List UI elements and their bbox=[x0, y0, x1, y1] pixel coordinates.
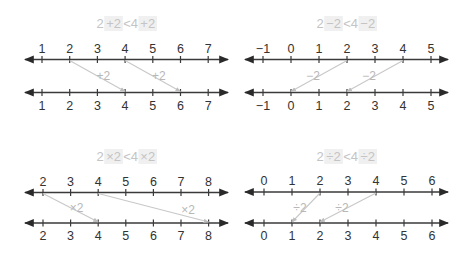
tick-label: 2 bbox=[66, 99, 73, 113]
tick-label: 4 bbox=[373, 229, 380, 243]
tick-label: 3 bbox=[372, 99, 379, 113]
tick-label: 3 bbox=[67, 229, 74, 243]
tick-label: 3 bbox=[94, 42, 101, 56]
operation-label: ÷2 bbox=[335, 201, 349, 215]
tick-label: 4 bbox=[95, 229, 102, 243]
operation-label: ×2 bbox=[181, 203, 195, 217]
tick-label: 5 bbox=[428, 99, 435, 113]
tick-label: 6 bbox=[177, 42, 184, 56]
operation-arrow: ×2 bbox=[98, 194, 208, 223]
tick-label: 2 bbox=[317, 174, 324, 188]
panel-title: 2+2<4+2 bbox=[96, 16, 157, 31]
tick-label: −1 bbox=[256, 99, 270, 113]
title-text: <4 bbox=[343, 16, 358, 31]
tick-label: 4 bbox=[95, 175, 102, 189]
tick-label: 1 bbox=[289, 174, 296, 188]
number-line-diagram: 2+2<4+212345671234567+2+2 2−2<4−2−101234… bbox=[0, 0, 471, 263]
tick-label: 4 bbox=[373, 174, 380, 188]
title-operator: ×2 bbox=[140, 149, 155, 164]
title-operator: ×2 bbox=[106, 149, 121, 164]
tick-label: 1 bbox=[289, 229, 296, 243]
title-operator: +2 bbox=[140, 16, 155, 31]
bottom-number-line: 1234567 bbox=[25, 89, 228, 113]
title-operator: ÷2 bbox=[361, 149, 375, 164]
tick-label: 4 bbox=[400, 42, 407, 56]
tick-label: 4 bbox=[400, 99, 407, 113]
title-operator: −2 bbox=[326, 16, 341, 31]
title-text: 2 bbox=[96, 16, 103, 31]
tick-label: 6 bbox=[150, 175, 157, 189]
operation-arrow: −2 bbox=[347, 61, 403, 92]
tick-label: 0 bbox=[261, 174, 268, 188]
operation-label: +2 bbox=[152, 69, 166, 83]
tick-label: 5 bbox=[401, 174, 408, 188]
tick-label: 2 bbox=[40, 229, 47, 243]
tick-label: 4 bbox=[122, 99, 129, 113]
top-number-line: −1012345 bbox=[245, 42, 448, 64]
tick-label: 2 bbox=[66, 42, 73, 56]
bottom-number-line: 0123456 bbox=[245, 220, 448, 244]
tick-label: 5 bbox=[149, 42, 156, 56]
operation-arrow: −2 bbox=[291, 61, 347, 92]
title-text: <4 bbox=[343, 149, 358, 164]
operation-arrow: ÷2 bbox=[320, 193, 376, 222]
tick-label: 3 bbox=[94, 99, 101, 113]
operation-label: +2 bbox=[97, 69, 111, 83]
tick-label: 4 bbox=[122, 42, 129, 56]
tick-label: 5 bbox=[428, 42, 435, 56]
operation-label: −2 bbox=[306, 69, 320, 83]
title-text: 2 bbox=[96, 149, 103, 164]
tick-label: 1 bbox=[39, 42, 46, 56]
tick-label: 5 bbox=[122, 175, 129, 189]
tick-label: 3 bbox=[345, 174, 352, 188]
tick-label: 7 bbox=[178, 175, 185, 189]
bottom-number-line: 2345678 bbox=[25, 220, 228, 244]
operation-arrow: ÷2 bbox=[292, 193, 320, 222]
tick-label: 6 bbox=[150, 229, 157, 243]
tick-label: 7 bbox=[205, 99, 212, 113]
tick-label: 2 bbox=[344, 42, 351, 56]
tick-label: 3 bbox=[372, 42, 379, 56]
operation-label: ×2 bbox=[70, 201, 84, 215]
tick-label: 3 bbox=[67, 175, 74, 189]
title-text: <4 bbox=[123, 149, 138, 164]
tick-label: 2 bbox=[317, 229, 324, 243]
panel-subtraction: 2−2<4−2−1012345−1012345−2−2 bbox=[245, 16, 448, 113]
panel-addition: 2+2<4+212345671234567+2+2 bbox=[25, 16, 228, 113]
tick-label: 7 bbox=[205, 42, 212, 56]
panel-division: 2÷2<4÷201234560123456÷2÷2 bbox=[245, 149, 448, 243]
tick-label: 2 bbox=[344, 99, 351, 113]
title-text: 2 bbox=[316, 149, 323, 164]
tick-label: 1 bbox=[316, 99, 323, 113]
title-text: 2 bbox=[316, 16, 323, 31]
panel-title: 2÷2<4÷2 bbox=[316, 149, 377, 164]
tick-label: 8 bbox=[205, 175, 212, 189]
operation-arrow: ×2 bbox=[43, 194, 98, 223]
top-number-line: 0123456 bbox=[245, 174, 448, 196]
tick-label: 5 bbox=[401, 229, 408, 243]
tick-label: −1 bbox=[256, 42, 270, 56]
tick-label: 5 bbox=[122, 229, 129, 243]
tick-label: 0 bbox=[261, 229, 268, 243]
tick-label: 6 bbox=[429, 229, 436, 243]
title-operator: ÷2 bbox=[326, 149, 340, 164]
tick-label: 6 bbox=[177, 99, 184, 113]
tick-label: 3 bbox=[345, 229, 352, 243]
operation-arrow: +2 bbox=[125, 61, 180, 92]
tick-label: 7 bbox=[178, 229, 185, 243]
tick-label: 8 bbox=[205, 229, 212, 243]
tick-label: 1 bbox=[316, 42, 323, 56]
tick-label: 2 bbox=[40, 175, 47, 189]
title-operator: +2 bbox=[106, 16, 121, 31]
operation-label: ÷2 bbox=[293, 201, 307, 215]
tick-label: 0 bbox=[288, 42, 295, 56]
panel-title: 2×2<4×2 bbox=[96, 149, 157, 164]
operation-arrow: +2 bbox=[70, 61, 125, 92]
title-operator: −2 bbox=[360, 16, 375, 31]
bottom-number-line: −1012345 bbox=[245, 89, 448, 113]
tick-label: 0 bbox=[288, 99, 295, 113]
tick-label: 1 bbox=[39, 99, 46, 113]
title-text: <4 bbox=[123, 16, 138, 31]
tick-label: 6 bbox=[429, 174, 436, 188]
top-number-line: 2345678 bbox=[25, 175, 228, 197]
